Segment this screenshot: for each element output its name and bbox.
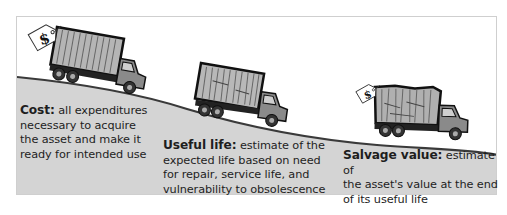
useful-life-term: Useful life: bbox=[163, 138, 236, 152]
useful-life-line: estimate of the bbox=[240, 139, 325, 152]
salvage-value-term: Salvage value: bbox=[343, 148, 442, 162]
useful-life-line: for repair, service life, and bbox=[163, 168, 309, 181]
useful-life-line: vulnerability to obsolescence bbox=[163, 183, 325, 196]
cost-description: Cost: all expenditures necessary to acqu… bbox=[20, 103, 170, 162]
useful-life-description: Useful life: estimate of the expected li… bbox=[163, 138, 363, 197]
salvage-value-line: of its useful life bbox=[343, 193, 428, 206]
cost-line: the asset and make it bbox=[20, 133, 141, 146]
salvage-value-description: Salvage value: estimate of the asset's v… bbox=[343, 148, 503, 207]
cost-line: necessary to acquire bbox=[20, 119, 136, 132]
truck-worn-icon bbox=[373, 85, 469, 140]
cost-line: all expenditures bbox=[58, 104, 147, 117]
cost-term: Cost: bbox=[20, 103, 55, 117]
cost-line: ready for intended use bbox=[20, 148, 146, 161]
salvage-value-line: the asset's value at the end bbox=[343, 178, 498, 191]
useful-life-line: expected life based on need bbox=[163, 154, 321, 167]
